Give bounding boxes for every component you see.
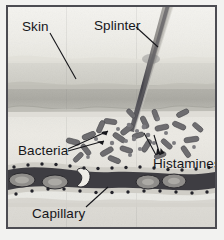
label-bacteria: Bacteria [18, 144, 68, 158]
label-skin: Skin [22, 20, 49, 34]
label-histamines: Histamines [153, 157, 217, 171]
label-splinter: Splinter [94, 19, 141, 33]
label-capillary: Capillary [32, 207, 85, 221]
figure-frame: Skin Splinter Bacteria Histamines Capill… [6, 5, 217, 229]
illustration-figure: Skin Splinter Bacteria Histamines Capill… [0, 0, 224, 240]
bacteria-and-histamines [8, 7, 215, 227]
